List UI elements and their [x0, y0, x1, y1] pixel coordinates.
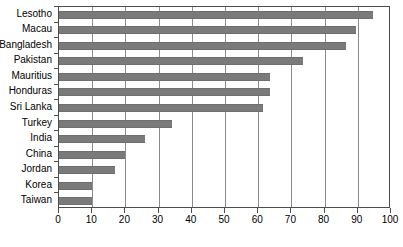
y-axis-label: Jordan	[21, 162, 52, 176]
bar	[59, 197, 92, 205]
y-axis-label: Korea	[25, 178, 52, 192]
x-axis-labels: 0102030405060708090100	[58, 213, 390, 227]
bar	[59, 166, 115, 174]
bar	[59, 11, 373, 19]
x-axis-label-30: 30	[152, 213, 163, 227]
x-axis-label-20: 20	[119, 213, 130, 227]
bar	[59, 182, 92, 190]
y-axis-label: Mauritius	[11, 69, 52, 83]
x-axis-label-100: 100	[382, 213, 399, 227]
y-axis-label: China	[26, 147, 52, 161]
x-axis-label-40: 40	[185, 213, 196, 227]
y-axis-label: Turkey	[22, 116, 52, 130]
bar	[59, 57, 303, 65]
bar-series	[59, 7, 389, 207]
x-axis-label-60: 60	[252, 213, 263, 227]
x-axis-label-70: 70	[285, 213, 296, 227]
x-axis-label-0: 0	[55, 213, 61, 227]
bar	[59, 88, 270, 96]
y-axis-label: Lesotho	[16, 7, 52, 21]
bar-chart: LesothoMacauBangladeshPakistanMauritiusH…	[0, 0, 403, 247]
y-axis-label: Pakistan	[14, 53, 52, 67]
plot-area	[58, 6, 390, 208]
bar	[59, 26, 356, 34]
bar	[59, 73, 270, 81]
bar	[59, 104, 263, 112]
y-axis-label: Bangladesh	[0, 38, 52, 52]
x-axis-label-80: 80	[318, 213, 329, 227]
y-axis-label: India	[30, 131, 52, 145]
x-axis-label-50: 50	[218, 213, 229, 227]
y-axis-labels: LesothoMacauBangladeshPakistanMauritiusH…	[0, 6, 55, 208]
bar	[59, 151, 125, 159]
x-axis-label-10: 10	[86, 213, 97, 227]
bar	[59, 42, 346, 50]
y-axis-label: Sri Lanka	[10, 100, 52, 114]
x-axis-label-90: 90	[351, 213, 362, 227]
y-axis-label: Macau	[22, 22, 52, 36]
bar	[59, 120, 172, 128]
y-axis-label: Honduras	[9, 84, 52, 98]
bar	[59, 135, 145, 143]
y-axis-label: Taiwan	[21, 193, 52, 207]
